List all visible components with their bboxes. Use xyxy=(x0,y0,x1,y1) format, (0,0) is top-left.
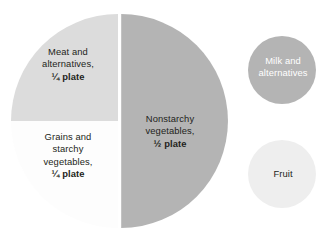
label-line: vegetables, xyxy=(124,125,216,137)
label-line: Fruit xyxy=(249,168,317,180)
label-line: Grains and xyxy=(22,131,114,143)
label-line-share: ¼ plate xyxy=(24,71,112,83)
healthy-plate-diagram: Meat and alternatives, ¼ plate Grains an… xyxy=(0,0,330,247)
milk-and-alternatives-label: Milk and alternatives xyxy=(249,55,317,80)
label-line: vegetables, xyxy=(22,156,114,168)
fruit-label: Fruit xyxy=(249,168,317,180)
plate-divider xyxy=(118,12,121,230)
label-line: Meat and xyxy=(24,46,112,58)
label-line: Milk and xyxy=(249,55,317,67)
label-line: Nonstarchy xyxy=(124,113,216,125)
label-line: alternatives, xyxy=(24,58,112,70)
grains-and-starchy-vegetables-label: Grains and starchy vegetables, ¼ plate xyxy=(22,131,114,181)
label-line: starchy xyxy=(22,143,114,155)
label-line-share: ½ plate xyxy=(124,138,216,150)
label-line: alternatives xyxy=(249,67,317,79)
meat-and-alternatives-label: Meat and alternatives, ¼ plate xyxy=(24,46,112,83)
nonstarchy-vegetables-label: Nonstarchy vegetables, ½ plate xyxy=(124,113,216,150)
label-line-share: ¼ plate xyxy=(22,168,114,180)
